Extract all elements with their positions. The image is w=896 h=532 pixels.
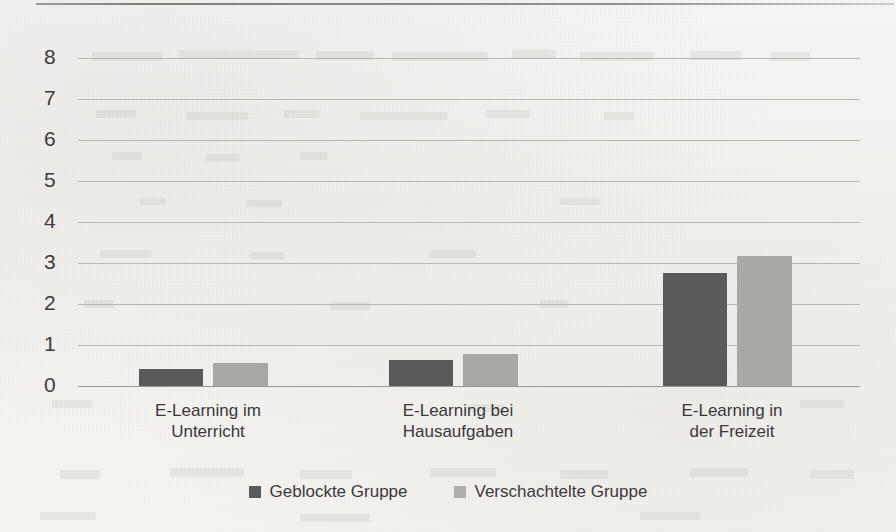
legend-label: Geblockte Gruppe [270, 482, 408, 502]
bar-geblockte-group-3 [663, 273, 727, 386]
bar-verschachtelte-group-2 [463, 354, 518, 386]
bar-chart-plot-area: 012345678E-Learning imUnterrichtE-Learni… [0, 0, 896, 532]
category-label-line: E-Learning im [78, 400, 338, 421]
x-axis-category-label-2: E-Learning beiHausaufgaben [328, 400, 588, 442]
category-label-line: der Freizeit [602, 421, 862, 442]
category-label-line: E-Learning bei [328, 400, 588, 421]
bar-geblockte-group-2 [389, 360, 453, 386]
scanned-chart-page: 012345678E-Learning imUnterrichtE-Learni… [0, 0, 896, 532]
x-axis-category-label-1: E-Learning imUnterricht [78, 400, 338, 442]
gridline [78, 222, 860, 223]
category-label-line: Hausaufgaben [328, 421, 588, 442]
category-label-line: E-Learning in [602, 400, 862, 421]
gridline [78, 99, 860, 100]
x-axis-category-label-3: E-Learning inder Freizeit [602, 400, 862, 442]
gridline [78, 140, 860, 141]
category-label-line: Unterricht [78, 421, 338, 442]
bar-geblockte-group-1 [139, 369, 203, 386]
chart-legend: Geblockte Gruppe Verschachtelte Gruppe [0, 482, 896, 502]
legend-swatch-dark-icon [249, 486, 261, 498]
legend-item-geblockte-gruppe[interactable]: Geblockte Gruppe [249, 482, 408, 502]
gridline [78, 58, 860, 59]
legend-swatch-light-icon [454, 486, 466, 498]
y-axis-tick-label: 2 [22, 291, 56, 315]
bar-verschachtelte-group-1 [213, 363, 268, 386]
legend-label: Verschachtelte Gruppe [475, 482, 648, 502]
x-axis-line [78, 386, 860, 387]
y-axis-tick-label: 3 [22, 250, 56, 274]
y-axis-tick-label: 5 [22, 168, 56, 192]
y-axis-tick-label: 7 [22, 86, 56, 110]
y-axis-tick-label: 0 [22, 373, 56, 397]
bar-verschachtelte-group-3 [737, 256, 792, 386]
y-axis-tick-label: 4 [22, 209, 56, 233]
gridline [78, 181, 860, 182]
y-axis-tick-label: 8 [22, 45, 56, 69]
y-axis-tick-label: 1 [22, 332, 56, 356]
y-axis-tick-label: 6 [22, 127, 56, 151]
legend-item-verschachtelte-gruppe[interactable]: Verschachtelte Gruppe [454, 482, 648, 502]
